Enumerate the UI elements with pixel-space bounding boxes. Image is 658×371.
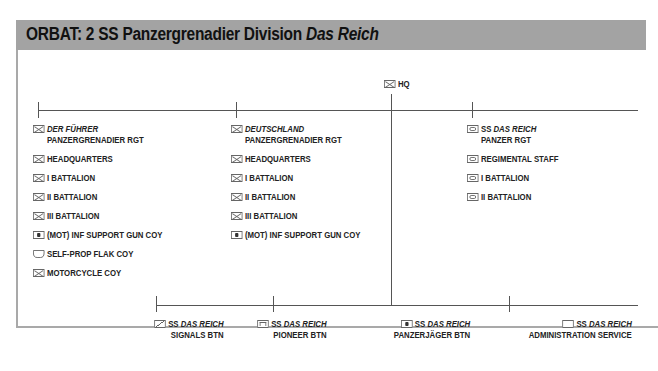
unit-panzer-rgt: SS DAS REICHPANZER RGT REGIMENTAL STAFF …: [467, 123, 558, 210]
hq-vertical-line: [391, 94, 392, 306]
infantry-icon: [231, 212, 242, 220]
support-gun-icon: [231, 231, 242, 239]
tick-signals: [156, 296, 157, 312]
tick-der-fuhrer: [38, 102, 39, 118]
infantry-icon: [231, 155, 242, 163]
unit-pioneer-btn: SS DAS REICHPIONEER BTN: [258, 318, 327, 340]
engineer-icon: [258, 320, 269, 328]
armour-regiment-icon: [467, 125, 478, 133]
infantry-icon: [33, 174, 44, 182]
infantry-regiment-icon: [231, 125, 242, 133]
tick-admin: [509, 296, 510, 312]
infantry-icon: [231, 174, 242, 182]
infantry-icon: [33, 212, 44, 220]
title-bar: ORBAT: 2 SS Panzergrenadier Division Das…: [16, 20, 646, 50]
armour-icon: [467, 155, 478, 163]
tick-pioneer: [273, 296, 274, 312]
bottom-connector-line: [156, 305, 638, 306]
top-connector-line: [38, 110, 638, 111]
armour-icon: [467, 174, 478, 182]
infantry-hq-icon: [384, 80, 395, 88]
administration-icon: [563, 320, 574, 328]
infantry-icon: [33, 155, 44, 163]
unit-deutschland-rgt: DEUTSCHLANDPANZERGRENADIER RGT HEADQUART…: [231, 123, 360, 248]
motorcycle-infantry-icon: [33, 269, 44, 277]
infantry-regiment-icon: [33, 125, 44, 133]
unit-admin-service: SS DAS REICHADMINISTRATION SERVICE: [529, 318, 632, 340]
armour-icon: [467, 193, 478, 201]
infantry-icon: [33, 193, 44, 201]
unit-signals-btn: SS DAS REICHSIGNALS BTN: [155, 318, 224, 340]
flak-icon: [33, 250, 44, 258]
infantry-icon: [231, 193, 242, 201]
tick-panzer-rgt: [472, 102, 473, 118]
page-title: ORBAT: 2 SS Panzergrenadier Division Das…: [26, 24, 379, 45]
unit-panzerjager-btn: SS DAS REICHPANZERJÄGER BTN: [394, 318, 470, 340]
support-gun-icon: [33, 231, 44, 239]
anti-tank-icon: [401, 320, 412, 328]
signals-icon: [155, 320, 166, 328]
tick-deutschland: [236, 102, 237, 118]
unit-der-fuhrer-rgt: DER FÜHRERPANZERGRENADIER RGT HEADQUARTE…: [33, 123, 162, 286]
division-hq: HQ: [384, 78, 410, 89]
